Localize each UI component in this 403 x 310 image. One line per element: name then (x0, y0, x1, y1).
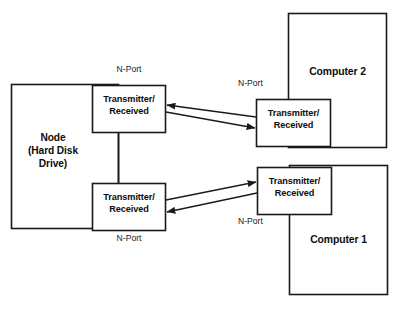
node-device-label-line1: Node (12, 132, 94, 143)
node-upper-port-label-line2: Received (93, 106, 165, 116)
link-computer1-to-node-arrow (167, 193, 257, 212)
n-port-label-computer1: N-Port (238, 216, 282, 226)
node-device-label-line3: Drive) (12, 158, 94, 169)
computer-2-port-label-line2: Received (257, 120, 330, 130)
node-device-label-line2: (Hard Disk (12, 145, 94, 156)
computer-2-port-label-line1: Transmitter/ (257, 108, 330, 118)
node-lower-port-label-line1: Transmitter/ (93, 192, 165, 202)
n-port-label-computer2: N-Port (238, 78, 282, 88)
computer-2-label: Computer 2 (289, 66, 386, 78)
n-port-label-node-lower: N-Port (92, 233, 166, 243)
computer-1-label: Computer 1 (290, 234, 387, 246)
computer-1-port-label-line2: Received (258, 188, 331, 198)
n-port-label-node-upper: N-Port (92, 64, 166, 74)
link-node-to-computer1-arrow (166, 182, 256, 200)
node-upper-port-label-line1: Transmitter/ (93, 94, 165, 104)
computer-1-port-label-line1: Transmitter/ (258, 176, 331, 186)
fibre-channel-topology-diagram: N-Port N-Port N-Port N-Port Node (Hard D… (0, 0, 403, 310)
node-lower-port-label-line2: Received (93, 204, 165, 214)
link-node-to-computer2-arrow (166, 112, 255, 128)
